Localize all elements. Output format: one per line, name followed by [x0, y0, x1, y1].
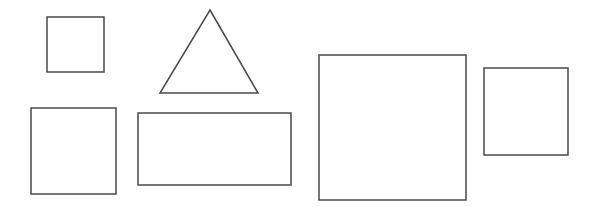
shape-canvas	[0, 0, 594, 207]
canvas-background	[0, 0, 594, 207]
shape-canvas-root	[0, 0, 594, 207]
